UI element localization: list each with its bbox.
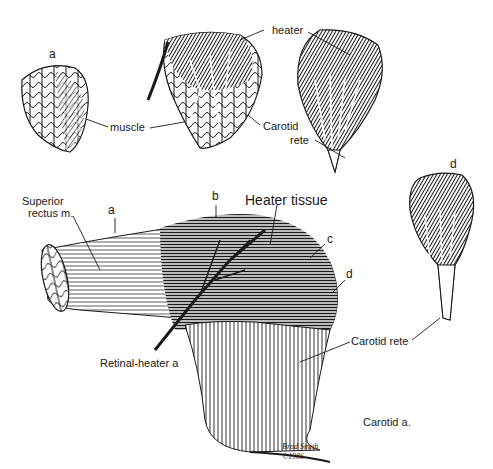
- panel-a-letter: a: [49, 48, 56, 60]
- heater-label: heater: [272, 25, 303, 36]
- arrow-label-a: a: [108, 204, 115, 216]
- panel-a-muscle-drawing: [22, 66, 88, 152]
- superior-rectus-label-line2: rectus m.: [28, 208, 73, 219]
- illustration-artwork: [0, 0, 493, 469]
- copyright-year: ©1986: [282, 453, 304, 461]
- panel-b-heater-drawing: [148, 32, 262, 148]
- arrow-label-d: d: [346, 268, 353, 280]
- panel-d-letter: d: [450, 158, 457, 170]
- superior-rectus-label-line1: Superior: [22, 196, 64, 207]
- retinal-heater-artery-label: Retinal-heater a: [100, 358, 178, 369]
- carotid-rete-label: Carotid rete: [351, 336, 408, 347]
- muscle-label: muscle: [110, 122, 145, 133]
- figure-canvas: a muscle heater Carotid rete d Superior …: [0, 0, 493, 469]
- carotid-rete-label-line2: rete: [290, 135, 309, 146]
- artist-signature: Brad Smith: [282, 443, 318, 451]
- main-muscle-drawing: [36, 214, 337, 462]
- panel-c-heater-drawing: [298, 30, 383, 172]
- arrow-label-b: b: [212, 190, 219, 202]
- carotid-rete-label-line1: Carotid: [263, 121, 298, 132]
- heater-tissue-label: Heater tissue: [245, 193, 327, 207]
- panel-d-small-drawing: [410, 173, 474, 320]
- carotid-artery-label: Carotid a.: [363, 417, 411, 428]
- arrow-label-c: c: [327, 233, 333, 245]
